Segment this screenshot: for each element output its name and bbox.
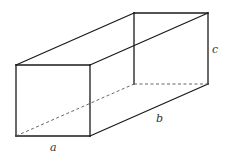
label-c: c <box>212 43 218 56</box>
front-face <box>16 65 90 136</box>
label-a: a <box>50 141 57 154</box>
bottom-right-depth-edge <box>90 84 208 136</box>
label-b: b <box>156 112 163 125</box>
hidden-edges <box>16 84 208 136</box>
top-right-depth-edge <box>90 13 208 65</box>
back-face <box>134 13 208 84</box>
top-left-depth-edge <box>16 13 134 65</box>
rectangular-prism-diagram: a b c <box>0 0 227 157</box>
hidden-bottom-left-depth-edge <box>16 84 134 136</box>
depth-edges <box>16 13 208 136</box>
